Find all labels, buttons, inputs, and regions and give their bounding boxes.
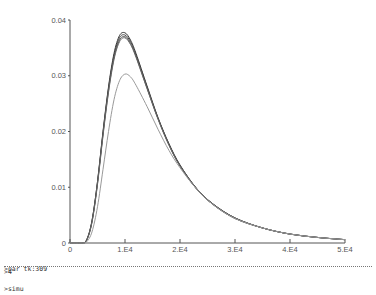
x-tick-label: 3.E4 [227, 245, 242, 254]
y-tick-label: 0.02 [51, 127, 66, 136]
series-line-curve-5 [70, 74, 345, 243]
y-tick-label: 0.01 [51, 183, 66, 192]
console-prompt[interactable]: >4 [4, 268, 12, 276]
chart-axes: 00.010.020.030.0401.E42.E43.E44.E45.E4 [51, 16, 352, 255]
y-tick-label: 0.04 [51, 16, 66, 25]
console-line: >simu [4, 286, 47, 293]
x-tick-label: 0 [68, 245, 72, 254]
chart-series [70, 32, 345, 243]
y-tick-label: 0.03 [51, 71, 66, 80]
y-tick-label: 0 [62, 239, 66, 248]
console-separator [4, 266, 372, 268]
x-tick-label: 4.E4 [282, 245, 297, 254]
series-line-curve-1 [70, 32, 345, 243]
x-tick-label: 1.E4 [117, 245, 132, 254]
x-tick-label: 2.E4 [172, 245, 187, 254]
x-tick-label: 5.E4 [337, 245, 352, 254]
